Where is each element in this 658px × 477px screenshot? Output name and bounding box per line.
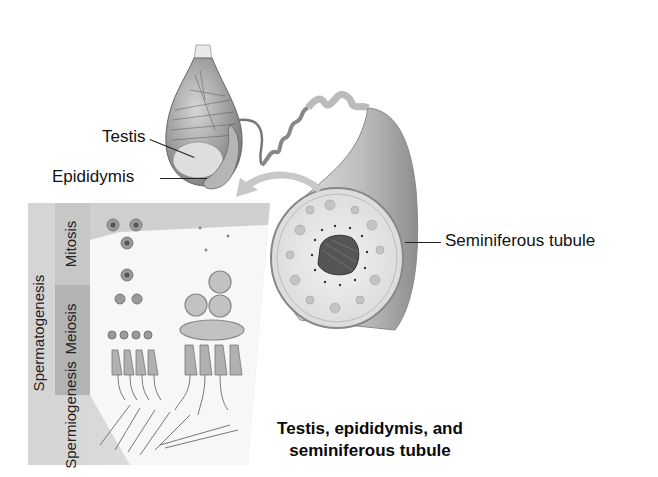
caption-line-2: seminiferous tubule [235,440,505,462]
label-epididymis: Epididymis [52,168,134,185]
leader-line-epididymis [160,178,207,179]
label-testis: Testis [102,128,145,145]
seminiferous-tubule-illustration [271,108,418,330]
caption: Testis, epididymis, and seminiferous tub… [235,418,505,462]
caption-line-1: Testis, epididymis, and [235,418,505,440]
label-stage-spermiogenesis: Spermiogenesis [62,355,82,475]
label-stage-mitosis: Mitosis [62,204,82,284]
label-spermatogenesis: Spermatogenesis [30,263,50,403]
label-seminiferous-tubule: Seminiferous tubule [445,232,595,249]
leader-line-seminiferous-tubule [405,242,441,243]
